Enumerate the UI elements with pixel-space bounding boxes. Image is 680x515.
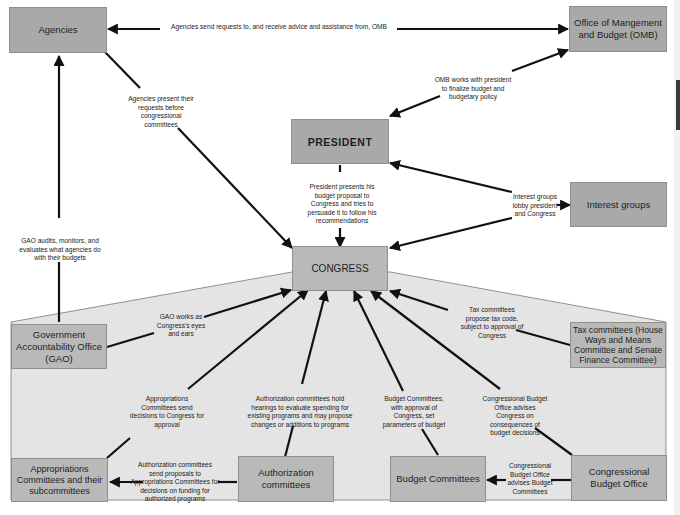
edge-label-appropriations-congress: Appropriations Committees send decisions…: [129, 395, 205, 429]
node-authorization-label: Authorization committees: [239, 467, 333, 491]
edge-label-omb-president: OMB works with president to finalize bud…: [433, 76, 513, 102]
edge-label-agencies-omb: Agencies send requests to, and receive a…: [163, 23, 395, 32]
edge-label-cbo-budget: Congressional Budget Office advises Budg…: [504, 462, 556, 496]
congress-region: [11, 272, 666, 500]
node-tax-committees-label: Tax committees (House Ways and Means Com…: [573, 325, 663, 365]
edge-label-gao-congress: GAO works as Congress's eyes and ears: [155, 313, 207, 339]
node-agencies: Agencies: [9, 7, 107, 53]
node-cbo-label: Congressional Budget Office: [576, 466, 662, 490]
node-tax-committees: Tax committees (House Ways and Means Com…: [570, 322, 666, 368]
node-budget-committees: Budget Committees: [390, 456, 486, 502]
edge-label-interest-groups: Interest groups lobby president and Cong…: [512, 193, 558, 219]
node-gao-label: Government Accountability Office (GAO): [14, 329, 104, 365]
node-congress-label: CONGRESS: [311, 263, 368, 275]
node-president-label: PRESIDENT: [308, 136, 373, 148]
edge-label-authorization-appropriations: Authorization committees send proposals …: [130, 461, 220, 504]
node-gao: Government Accountability Office (GAO): [11, 324, 107, 369]
node-omb: Office of Mangement and Budget (OMB): [569, 6, 667, 52]
node-cbo: Congressional Budget Office: [571, 455, 667, 501]
node-omb-label: Office of Mangement and Budget (OMB): [574, 17, 662, 41]
edge-label-budget-congress: Budget Committees, with approval of Cong…: [381, 395, 447, 429]
edge-label-president-congress: President presents his budget proposal t…: [306, 183, 378, 226]
page-edge: [674, 0, 680, 515]
edge-label-tax-congress: Tax committees propose tax code, subject…: [457, 306, 527, 340]
node-president: PRESIDENT: [291, 119, 389, 164]
edge-label-authorization-congress: Authorization committees hold hearings t…: [245, 395, 355, 429]
node-appropriations: Appropriations Committees and their subc…: [11, 458, 108, 502]
node-agencies-label: Agencies: [38, 24, 77, 36]
edge-label-gao-agencies: GAO audits, monitors, and evaluates what…: [17, 237, 103, 263]
node-interest-groups: Interest groups: [570, 182, 667, 227]
edge-label-cbo-congress: Congressional Budget Office advises Cong…: [480, 395, 550, 438]
node-interest-groups-label: Interest groups: [587, 199, 650, 211]
page-edge-tab: [676, 80, 680, 130]
budget-process-diagram: Agencies Office of Mangement and Budget …: [0, 0, 680, 515]
node-authorization: Authorization committees: [238, 456, 334, 502]
edge-label-agencies-congress: Agencies present their requests before c…: [128, 95, 194, 129]
node-congress: CONGRESS: [292, 246, 388, 291]
node-budget-committees-label: Budget Committees: [396, 473, 479, 485]
node-appropriations-label: Appropriations Committees and their subc…: [12, 464, 107, 497]
